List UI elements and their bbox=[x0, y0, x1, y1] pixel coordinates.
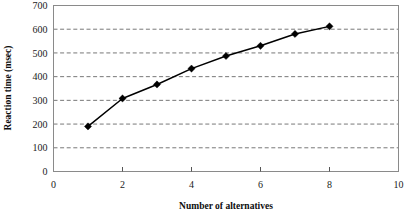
x-axis-title: Number of alternatives bbox=[179, 201, 273, 211]
y-tick-label: 0 bbox=[43, 166, 48, 177]
y-axis-title: Reaction time (msec) bbox=[3, 46, 14, 131]
x-tick-label: 0 bbox=[51, 179, 56, 190]
chart-container: 0100200300400500600700 0246810 Reaction … bbox=[0, 0, 412, 219]
y-tick-label: 700 bbox=[33, 0, 48, 11]
y-tick-label: 200 bbox=[33, 119, 48, 130]
chart-background bbox=[0, 0, 412, 219]
x-tick-label: 6 bbox=[258, 179, 263, 190]
y-tick-label: 100 bbox=[33, 142, 48, 153]
y-tick-label: 600 bbox=[33, 24, 48, 35]
x-tick-label: 8 bbox=[327, 179, 332, 190]
y-tick-label: 400 bbox=[33, 71, 48, 82]
y-tick-label: 500 bbox=[33, 48, 48, 59]
x-tick-label: 4 bbox=[189, 179, 194, 190]
x-tick-label: 10 bbox=[394, 179, 404, 190]
x-tick-label: 2 bbox=[120, 179, 125, 190]
reaction-time-line-chart: 0100200300400500600700 0246810 Reaction … bbox=[0, 0, 412, 219]
y-tick-label: 300 bbox=[33, 95, 48, 106]
